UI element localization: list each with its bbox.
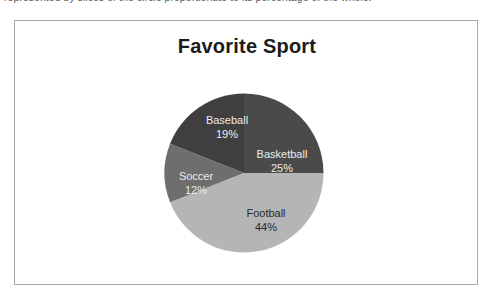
pie-slice-name-soccer: Soccer [179,170,214,182]
caption-text: represented by slices of the circle prop… [4,0,490,3]
figure-frame: Favorite Sport Basketball25%Football44%S… [14,20,478,285]
pie-slice-value-soccer: 12% [185,184,207,196]
caption-strip: represented by slices of the circle prop… [0,0,493,12]
pie-slice-name-baseball: Baseball [206,114,248,126]
chart-title: Favorite Sport [15,35,479,58]
pie-slice-value-basketball: 25% [271,162,293,174]
pie-chart: Basketball25%Football44%Soccer12%Basebal… [164,93,324,253]
pie-chart-svg: Basketball25%Football44%Soccer12%Basebal… [164,93,324,253]
pie-slice-value-football: 44% [255,221,277,233]
pie-slice-value-baseball: 19% [216,128,238,140]
pie-slice-name-football: Football [246,207,285,219]
pie-slice-name-basketball: Basketball [257,148,308,160]
